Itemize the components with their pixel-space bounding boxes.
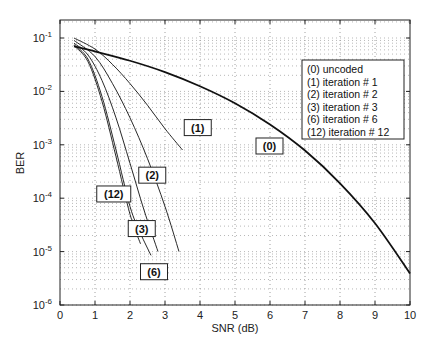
x-tick-label: 6 (267, 309, 273, 321)
y-tick-label: 10-2 (33, 83, 53, 97)
x-tick-label: 9 (372, 309, 378, 321)
legend: (0) uncoded(1) iteration # 1(2) iteratio… (302, 60, 404, 139)
x-tick-label: 7 (302, 309, 308, 321)
series-tag: (1) (191, 122, 205, 134)
series-tag: (3) (135, 223, 149, 235)
legend-entry: (12) iteration # 12 (307, 126, 389, 138)
x-tick-label: 2 (127, 309, 133, 321)
legend-entry: (6) iteration # 6 (307, 113, 378, 125)
y-tick-label: 10-5 (33, 244, 53, 258)
y-tick-label: 10-4 (33, 190, 53, 204)
legend-entry: (0) uncoded (307, 63, 363, 75)
y-axis-label: BER (14, 152, 26, 175)
x-tick-label: 8 (337, 309, 343, 321)
legend-entry: (3) iteration # 3 (307, 101, 378, 113)
series-tag: (12) (104, 188, 124, 200)
x-tick-label: 4 (197, 309, 203, 321)
x-tick-label: 5 (232, 309, 238, 321)
series-tag: (6) (147, 266, 161, 278)
series-tag: (0) (263, 140, 277, 152)
x-tick-label: 10 (404, 309, 416, 321)
y-tick-label: 10-6 (33, 297, 53, 311)
y-tick-label: 10-3 (33, 137, 53, 151)
x-tick-label: 1 (92, 309, 98, 321)
legend-entry: (1) iteration # 1 (307, 76, 378, 88)
y-tick-label: 10-1 (33, 30, 53, 44)
series-tags: (0)(1)(2)(3)(6)(12) (97, 120, 283, 280)
legend-entry: (2) iteration # 2 (307, 88, 378, 100)
x-tick-label: 3 (162, 309, 168, 321)
series-tag: (2) (146, 169, 160, 181)
x-tick-label: 0 (57, 309, 63, 321)
ber-chart: 01234567891010-110-210-310-410-510-6 (0)… (0, 0, 440, 354)
x-axis-label: SNR (dB) (211, 322, 258, 334)
